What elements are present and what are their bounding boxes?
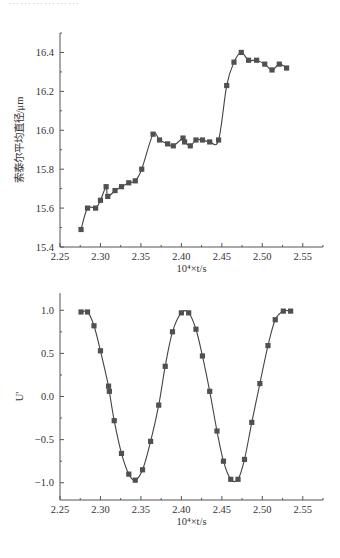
x-tick-label: 2.40	[172, 504, 190, 515]
data-point-marker	[228, 477, 233, 482]
data-point-marker	[179, 310, 184, 315]
x-tick-label: 2.45	[213, 251, 231, 262]
data-point-marker	[126, 180, 131, 185]
data-point-marker	[85, 205, 90, 210]
data-point-marker	[200, 353, 205, 358]
series-line	[81, 310, 291, 481]
chart-sauter-diameter: 2.252.302.352.402.452.502.5515.415.615.8…	[13, 33, 323, 274]
data-point-marker	[262, 62, 267, 67]
data-point-marker	[284, 65, 289, 70]
data-point-marker	[104, 184, 109, 189]
data-point-marker	[273, 317, 278, 322]
x-tick-label: 2.35	[132, 251, 150, 262]
data-point-marker	[257, 381, 262, 386]
x-tick-label: 2.50	[253, 504, 271, 515]
y-tick-label: 15.8	[36, 164, 54, 175]
data-point-marker	[119, 184, 124, 189]
data-point-marker	[98, 198, 103, 203]
data-point-marker	[221, 459, 226, 464]
data-point-marker	[156, 403, 161, 408]
data-point-marker	[112, 418, 117, 423]
x-tick-label: 2.30	[91, 251, 109, 262]
data-point-marker	[78, 309, 83, 314]
data-point-marker	[193, 327, 198, 332]
y-tick-label: 1.0	[41, 305, 54, 316]
x-tick-label: 2.40	[172, 251, 190, 262]
data-point-marker	[246, 58, 251, 63]
x-tick-label: 2.45	[213, 504, 231, 515]
data-point-marker	[249, 420, 254, 425]
data-point-marker	[207, 139, 212, 144]
data-point-marker	[98, 348, 103, 353]
data-point-marker	[207, 389, 212, 394]
y-tick-label: 16.0	[36, 125, 54, 136]
data-point-marker	[277, 62, 282, 67]
x-tick-label: 2.25	[51, 504, 69, 515]
data-point-marker	[188, 143, 193, 148]
data-point-marker	[106, 384, 111, 389]
data-point-marker	[269, 67, 274, 72]
x-tick-label: 2.25	[51, 251, 69, 262]
y-tick-label: 16.4	[36, 47, 55, 58]
data-point-marker	[214, 428, 219, 433]
data-point-marker	[186, 310, 191, 315]
data-point-marker	[105, 194, 110, 199]
data-point-marker	[231, 60, 236, 65]
data-point-marker	[157, 137, 162, 142]
data-point-marker	[133, 478, 138, 483]
data-point-marker	[107, 389, 112, 394]
x-axis-title: 10⁴×t/s	[176, 516, 206, 527]
data-point-marker	[193, 137, 198, 142]
y-tick-label: 0.5	[41, 348, 54, 359]
data-point-marker	[148, 439, 153, 444]
data-point-marker	[281, 309, 286, 314]
x-tick-label: 2.55	[294, 251, 312, 262]
chart-u-prime: 2.252.302.352.402.452.502.55−1.0−0.50.00…	[14, 293, 323, 527]
data-point-marker	[85, 309, 90, 314]
x-tick-label: 2.55	[294, 504, 312, 515]
x-tick-label: 2.35	[132, 504, 150, 515]
data-point-marker	[78, 227, 83, 232]
y-tick-label: −1.0	[35, 477, 54, 488]
data-point-marker	[93, 205, 98, 210]
data-point-marker	[171, 143, 176, 148]
x-tick-label: 2.50	[253, 251, 271, 262]
x-tick-label: 2.30	[91, 504, 109, 515]
y-tick-label: 15.6	[36, 203, 54, 214]
data-point-marker	[133, 178, 138, 183]
y-tick-label: 15.4	[36, 242, 55, 253]
data-point-marker	[216, 137, 221, 142]
data-point-marker	[254, 58, 259, 63]
y-tick-label: 16.2	[36, 86, 54, 97]
data-point-marker	[163, 364, 168, 369]
data-point-marker	[200, 137, 205, 142]
data-point-marker	[165, 141, 170, 146]
y-tick-label: 0.0	[41, 391, 54, 402]
data-point-marker	[112, 188, 117, 193]
y-tick-label: −0.5	[35, 434, 54, 445]
data-point-marker	[265, 343, 270, 348]
data-point-marker	[126, 472, 131, 477]
data-point-marker	[182, 139, 187, 144]
y-axis-title: 索泰尔平均直径/μm	[13, 97, 25, 184]
x-axis-title: 10⁴×t/s	[176, 263, 206, 274]
data-point-marker	[235, 477, 240, 482]
chart-figure: 2.252.302.352.402.452.502.5515.415.615.8…	[0, 0, 340, 558]
data-point-marker	[91, 323, 96, 328]
data-point-marker	[239, 50, 244, 55]
data-point-marker	[150, 132, 155, 137]
data-point-marker	[242, 457, 247, 462]
data-point-marker	[139, 167, 144, 172]
data-point-marker	[140, 467, 145, 472]
data-point-marker	[224, 83, 229, 88]
y-axis-title: U'	[14, 392, 25, 402]
data-point-marker	[170, 329, 175, 334]
data-point-marker	[119, 451, 124, 456]
data-point-marker	[288, 309, 293, 314]
